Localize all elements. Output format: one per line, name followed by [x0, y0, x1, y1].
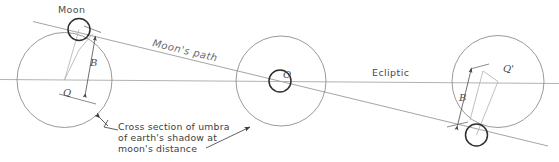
connector-right-upper — [483, 71, 498, 82]
diagram-canvas: Moon Moon's path Ecliptic O Q Q' B B Cro… — [0, 0, 559, 162]
tick-left-upper — [84, 26, 101, 33]
right-beta-label: B — [458, 92, 466, 103]
caption-line-1: Cross section of umbra — [118, 121, 230, 132]
caption-line-3: moon's distance — [118, 143, 197, 154]
eclipse-diagram: Moon Moon's path Ecliptic O Q Q' B B Cro… — [0, 0, 559, 162]
left-center-label: Q — [63, 87, 71, 98]
ecliptic-label: Ecliptic — [372, 67, 409, 78]
center-point-label: O — [283, 69, 291, 80]
tick-right-upper — [472, 64, 489, 69]
left-beta-label: B — [89, 57, 97, 68]
leader-left-caption — [104, 120, 118, 130]
caption-line-2: of earth's shadow at — [118, 132, 217, 143]
right-center-label: Q' — [503, 63, 514, 74]
moons-path-label: Moon's path — [152, 37, 219, 63]
moon-label: Moon — [58, 4, 85, 15]
connector-right-lower — [470, 71, 483, 120]
